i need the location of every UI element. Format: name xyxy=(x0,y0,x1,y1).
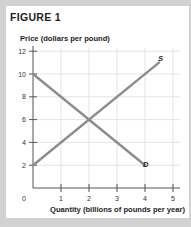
supply-curve xyxy=(33,63,159,166)
x-tick-label: 4 xyxy=(143,195,147,202)
y-axis-title: Price (dollars per pound) xyxy=(20,34,110,43)
y-tick-labels: 12 10 8 6 4 2 xyxy=(18,48,26,169)
x-tick-label: 0 xyxy=(22,195,26,202)
x-tick-label: 3 xyxy=(115,195,119,202)
demand-label: D xyxy=(143,160,149,169)
y-tick-label: 8 xyxy=(22,93,26,100)
y-tick-label: 4 xyxy=(22,139,26,146)
y-tick-label: 2 xyxy=(22,162,26,169)
x-tick-labels: 0 1 2 3 4 5 xyxy=(22,195,175,202)
y-tick-label: 12 xyxy=(18,48,26,55)
x-tick-label: 2 xyxy=(87,195,91,202)
x-tick-label: 1 xyxy=(59,195,63,202)
supply-label: S xyxy=(158,54,163,63)
vertical-gridlines xyxy=(61,48,173,188)
x-tick-label: 5 xyxy=(171,195,175,202)
x-axis-title: Quantity (billions of pounds per year) xyxy=(50,205,185,214)
y-tick-label: 6 xyxy=(22,116,26,123)
y-tick-label: 10 xyxy=(18,71,26,78)
supply-demand-chart: Price (dollars per pound) 12 xyxy=(0,0,191,227)
